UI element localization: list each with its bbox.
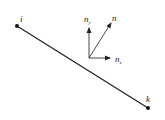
label-ny: ny — [84, 14, 92, 25]
label-n: n — [112, 13, 117, 23]
diagram-canvas: i k ny n nx — [0, 0, 165, 120]
label-k: k — [146, 94, 151, 104]
vector-n-arrow — [89, 23, 111, 58]
node-i — [15, 24, 19, 28]
label-nx: nx — [115, 54, 123, 65]
segment-ik — [17, 26, 148, 108]
label-i: i — [20, 14, 23, 24]
diagram-svg: i k ny n nx — [0, 0, 165, 120]
node-k — [146, 106, 150, 110]
